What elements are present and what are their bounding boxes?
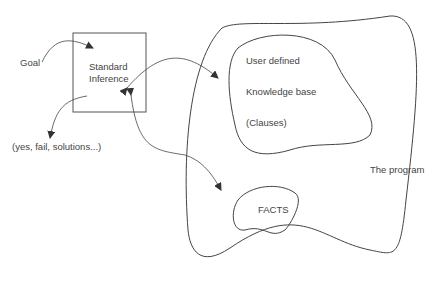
goal-label: Goal [20, 58, 40, 68]
output-arrow [50, 96, 87, 138]
kb-label-line1: User defined [246, 56, 300, 66]
program-boundary [186, 16, 416, 257]
facts-arrow [131, 95, 221, 190]
kb-label-line3: (Clauses) [246, 118, 287, 128]
kb-label-line2: Knowledge base [246, 87, 316, 97]
goal-arrow [42, 41, 93, 62]
inference-label-line1: Standard [89, 62, 128, 72]
output-label: (yes, fail, solutions...) [12, 142, 101, 152]
inference-label-line2: Inference [89, 74, 129, 84]
kb-arrow [127, 58, 218, 88]
program-label: The program [370, 165, 424, 175]
facts-label: FACTS [258, 205, 289, 215]
